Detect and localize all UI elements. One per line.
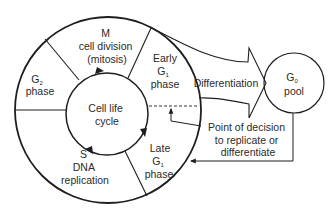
phase-g2-phase: phase xyxy=(26,85,55,97)
phase-late-g1-label: Late xyxy=(150,142,171,154)
divider-s-late-g1 xyxy=(125,151,147,196)
phase-late-g1-symbol: G1 xyxy=(152,155,164,168)
phase-early-g1-label: Early xyxy=(153,52,178,64)
phase-early-g1-symbol: G1 xyxy=(157,65,169,78)
g0-pool-symbol: G0 xyxy=(286,71,298,84)
phase-s-label: S DNA replication xyxy=(61,148,109,186)
g0-pool-label: pool xyxy=(284,85,304,97)
differentiation-label: Differentiation xyxy=(194,77,259,89)
divider-m-early-g1 xyxy=(128,28,151,78)
phase-late-g1-phase: phase xyxy=(145,168,174,180)
phase-m-label: M cell division (mitosis) xyxy=(79,27,136,65)
center-label: Cell life cycle xyxy=(88,102,125,127)
divider-g2-m xyxy=(45,39,79,80)
cell-cycle-diagram: Cell life cycle M cell division (mitosis… xyxy=(0,0,335,217)
decision-pointer xyxy=(171,109,201,126)
decision-label: Point of decision to replicate or differ… xyxy=(208,121,288,158)
inner-cycle-circle xyxy=(66,73,148,155)
phase-early-g1-phase: phase xyxy=(151,78,180,90)
